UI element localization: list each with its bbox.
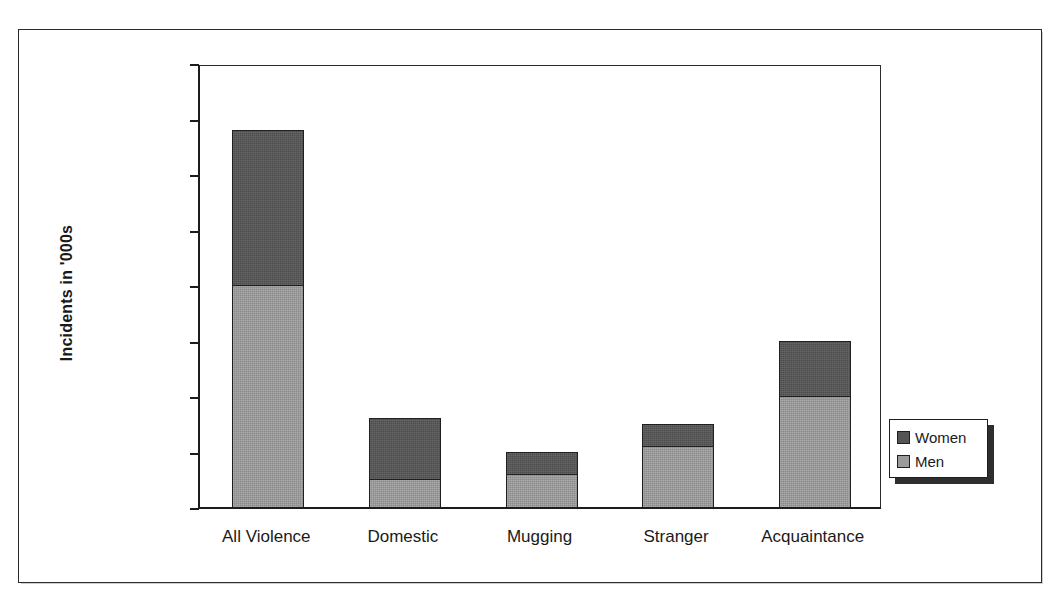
figure-frame: Incidents in '000s 4,0003,5003,0002,5002… [18, 29, 1042, 583]
bar-segment-women [506, 452, 578, 474]
bar-segment-women [779, 341, 851, 397]
plot-area [198, 65, 881, 509]
bar-segment-men [642, 446, 714, 507]
legend-box: WomenMen [889, 419, 988, 478]
legend-item: Men [897, 449, 987, 473]
legend-label: Men [915, 454, 944, 469]
legend-item: Women [897, 425, 987, 449]
bar-group [506, 452, 578, 507]
bar-group [369, 418, 441, 507]
legend: WomenMen [889, 419, 988, 478]
bar-segment-men [232, 285, 304, 507]
dark-gray-swatch [897, 431, 910, 444]
bar-segment-men [506, 474, 578, 507]
bar-segment-women [232, 130, 304, 285]
bar-segment-women [369, 418, 441, 479]
bar-segment-men [779, 396, 851, 507]
x-axis-label: Acquaintance [723, 527, 903, 547]
legend-label: Women [915, 430, 966, 445]
light-gray-swatch [897, 455, 910, 468]
bar-segment-men [369, 479, 441, 507]
stacked-bar-chart: Incidents in '000s 4,0003,5003,0002,5002… [19, 30, 1043, 584]
bar-group [232, 130, 304, 507]
bar-segment-women [642, 424, 714, 446]
bar-group [779, 341, 851, 508]
bar-group [642, 424, 714, 507]
y-axis-title: Incidents in '000s [58, 173, 76, 413]
